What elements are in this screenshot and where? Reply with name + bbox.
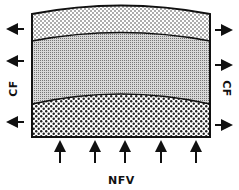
right-arrows: [215, 30, 227, 125]
layered-diagram: [0, 0, 239, 190]
left-arrows: [12, 29, 24, 122]
cf-label-right: CF: [220, 79, 233, 99]
lower-layer: [32, 94, 210, 137]
bottom-arrows: [60, 146, 196, 163]
nfv-label: NFV: [108, 174, 135, 187]
cf-label-left: CF: [7, 79, 20, 99]
